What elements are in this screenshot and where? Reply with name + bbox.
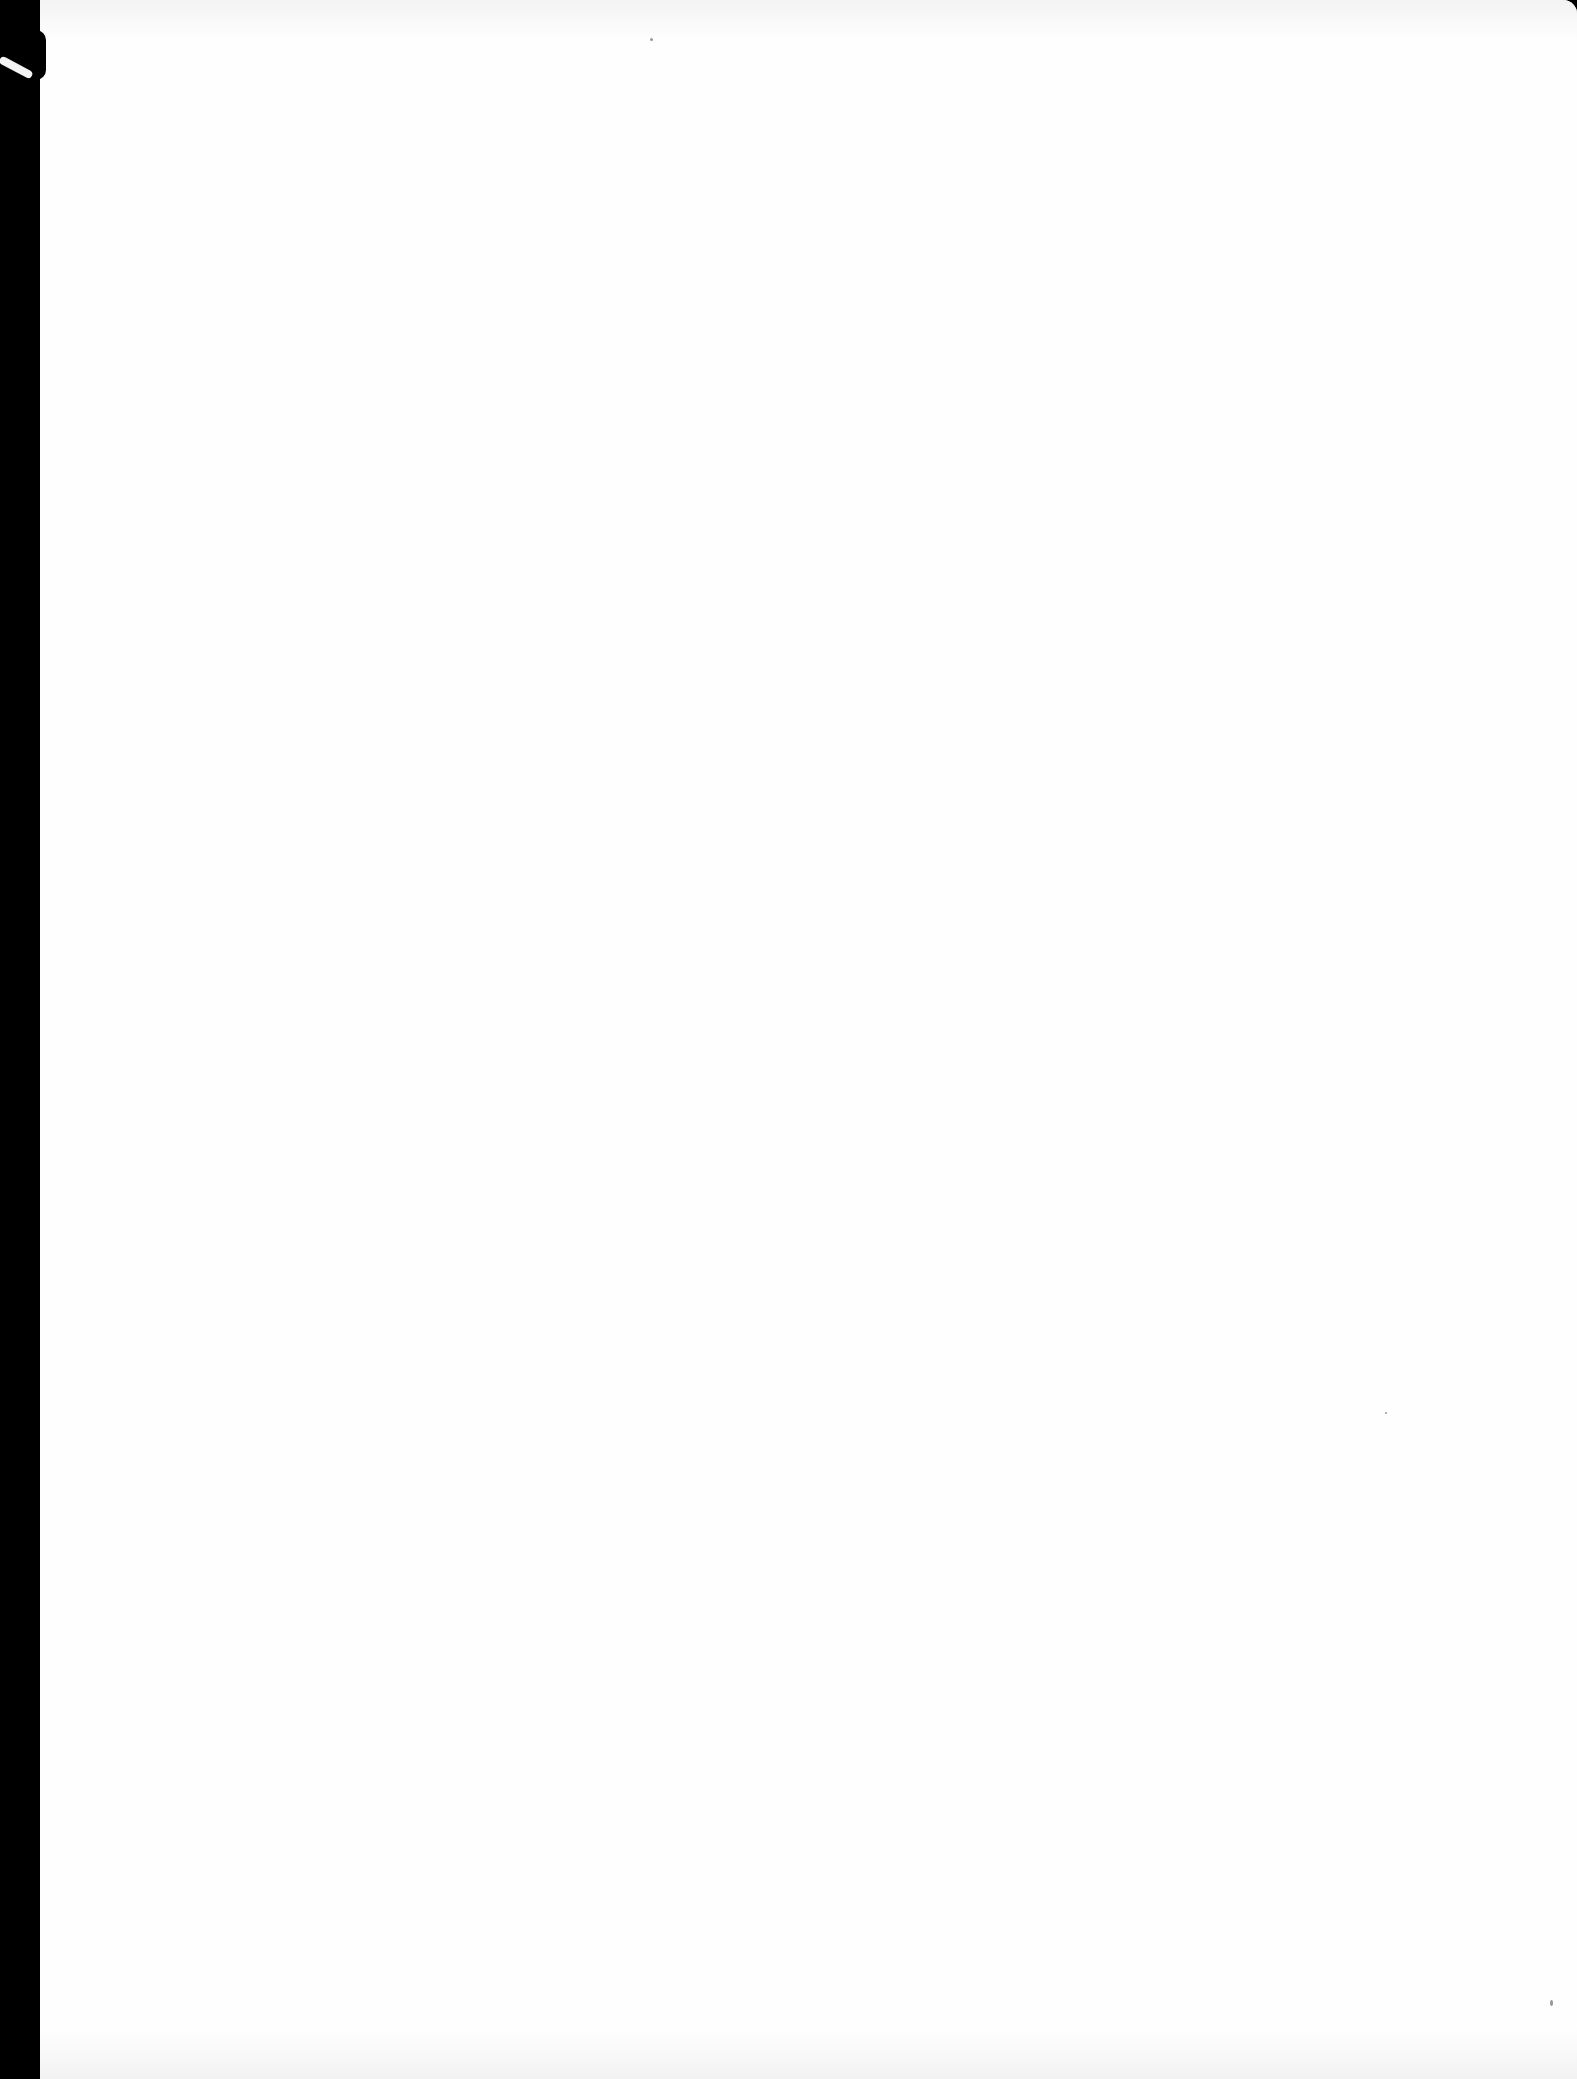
scan-speck xyxy=(650,38,653,41)
page-top-edge-shading xyxy=(40,0,1577,40)
scan-speck xyxy=(1550,2000,1553,2006)
page-bottom-edge-shading xyxy=(40,2029,1577,2079)
blank-paper-page xyxy=(40,0,1577,2079)
scan-speck xyxy=(1385,1412,1387,1414)
